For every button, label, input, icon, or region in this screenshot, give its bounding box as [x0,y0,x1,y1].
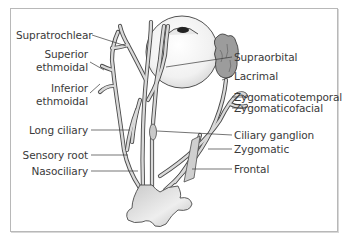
label-superior-ethmoidal: Superior [16,48,88,60]
label-inferior-ethmoidal-line2: ethmoidal [16,95,88,107]
label-sensory-root: Sensory root [16,149,88,161]
label-nasociliary: Nasociliary [16,165,88,177]
label-zygomatic: Zygomatic [234,143,289,155]
label-superior-ethmoidal-line2: ethmoidal [16,61,88,73]
label-ciliary-ganglion: Ciliary ganglion [234,129,314,141]
label-inferior-ethmoidal: Inferior [16,82,88,94]
label-zygomaticofacial: Zygomaticofacial [234,102,323,114]
trigeminal-ganglion [127,185,192,227]
label-supratrochlear: Supratrochlear [16,29,90,41]
label-long-ciliary: Long ciliary [16,124,88,136]
label-supraorbital: Supraorbital [234,51,297,63]
ciliary-ganglion-body [150,124,157,140]
label-lacrimal: Lacrimal [234,70,278,82]
label-frontal: Frontal [234,163,269,175]
